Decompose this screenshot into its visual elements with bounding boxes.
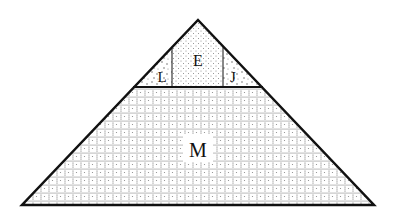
label-e: E xyxy=(193,52,203,69)
label-j: J xyxy=(230,69,236,85)
label-l: L xyxy=(157,69,166,85)
label-m: M xyxy=(189,139,207,161)
triangle-diagram: E L J M xyxy=(0,0,397,218)
